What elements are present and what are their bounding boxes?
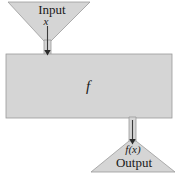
input-variable-label: x [33, 16, 59, 27]
function-machine-diagram: Input x f f(x) Output [0, 0, 178, 175]
output-value-label: f(x) [111, 144, 155, 155]
machine-function-label: f [76, 79, 100, 94]
output-label: Output [105, 156, 163, 169]
input-label: Input [22, 3, 82, 16]
